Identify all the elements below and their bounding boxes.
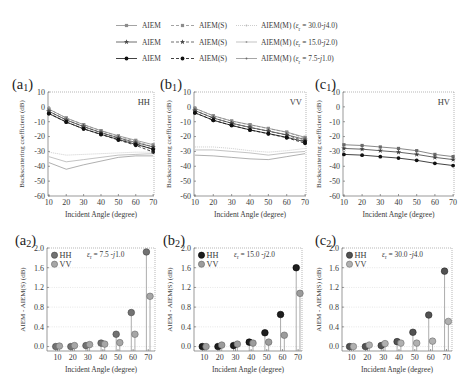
data-series xyxy=(195,147,305,152)
legend-entry: AIEM(M) (εr = 7.5-j1.0) xyxy=(236,54,334,64)
circle-marker-icon xyxy=(211,118,215,122)
legend-entry: AIEM(S) xyxy=(171,38,227,47)
legend-dot-icon xyxy=(198,261,204,267)
y-tick-label: -60 xyxy=(180,192,191,201)
x-tick-label: 70 xyxy=(442,353,450,362)
chart-panel: 100-10-20-30-40-50-6010203040506070Incid… xyxy=(12,76,157,219)
data-point xyxy=(132,331,139,338)
legend-entry: AIEM(M) (εr = 15.0-j2.0) xyxy=(236,38,338,48)
permittivity-annotation: εr = 30.0 -j4.0 xyxy=(382,250,423,260)
x-tick-label: 10 xyxy=(340,198,348,207)
legend-dot-icon xyxy=(346,261,352,267)
panel-label: (c1) xyxy=(315,76,336,93)
legend-label: HH xyxy=(207,251,219,260)
data-point xyxy=(113,331,120,338)
circle-marker-icon xyxy=(116,138,120,142)
chart-panel: 100-10-20-30-40-50-6010203040506070Incid… xyxy=(315,76,457,219)
star-marker-icon xyxy=(180,39,185,44)
circle-marker-icon xyxy=(99,133,103,137)
x-tick-label: 30 xyxy=(376,198,384,207)
x-tick-label: 10 xyxy=(45,198,53,207)
y-tick-label: 0 xyxy=(336,103,340,112)
data-point xyxy=(441,268,448,275)
x-tick-label: 60 xyxy=(283,198,291,207)
x-tick-label: 40 xyxy=(97,198,105,207)
series-line xyxy=(49,109,153,145)
polarization-label: HH xyxy=(138,97,150,107)
y-tick-label: 1.2 xyxy=(181,283,191,292)
y-tick-label: -20 xyxy=(329,132,340,141)
data-series xyxy=(49,152,153,155)
y-tick-label: 10 xyxy=(37,88,45,97)
y-tick-label: -10 xyxy=(34,118,45,127)
x-axis-title: Incident Angle (degree) xyxy=(212,365,285,374)
data-point xyxy=(281,332,288,339)
series-line xyxy=(195,154,305,160)
figure-panels: 100-10-20-30-40-50-6010203040506070Incid… xyxy=(12,76,457,374)
x-tick-label: 70 xyxy=(149,198,157,207)
data-point xyxy=(203,343,210,350)
x-tick-label: 30 xyxy=(228,198,236,207)
series-line xyxy=(195,150,305,155)
y-tick-label: -40 xyxy=(329,162,340,171)
y-tick-label: 10 xyxy=(183,88,191,97)
panel-label: (a2) xyxy=(15,232,36,249)
circle-marker-icon xyxy=(47,112,51,116)
data-series-vv xyxy=(203,290,304,351)
legend-label: AIEM(M) (εr = 30.0-j4.0) xyxy=(261,21,338,31)
x-tick-label: 40 xyxy=(246,198,254,207)
chart-panel: 0.00.40.81.21.62.010203040506070Incident… xyxy=(15,232,155,374)
x-tick-label: 60 xyxy=(129,353,137,362)
circle-marker-icon xyxy=(230,124,234,128)
data-point xyxy=(445,318,452,325)
x-tick-label: 70 xyxy=(449,198,457,207)
series-line xyxy=(195,147,305,152)
circle-marker-icon xyxy=(415,158,419,162)
series-line xyxy=(49,156,153,169)
x-tick-label: 60 xyxy=(278,353,286,362)
data-point xyxy=(86,341,93,348)
chart-panel: 100-10-20-30-40-50-6010203040506070Incid… xyxy=(160,76,309,219)
circle-marker-icon xyxy=(134,143,138,147)
x-tick-label: 50 xyxy=(264,198,272,207)
circle-marker-icon xyxy=(303,141,307,145)
data-point xyxy=(250,340,257,347)
data-point xyxy=(297,290,304,297)
data-series-vv xyxy=(56,293,153,351)
x-tick-label: 40 xyxy=(395,353,403,362)
y-tick-label: -30 xyxy=(34,147,45,156)
legend-dot-icon xyxy=(346,252,352,258)
data-point xyxy=(117,339,124,346)
x-tick-label: 10 xyxy=(200,353,208,362)
x-tick-label: 40 xyxy=(99,353,107,362)
y-tick-label: 1.2 xyxy=(329,283,339,292)
data-point xyxy=(56,343,63,350)
figure: AIEMAIEM(S)AIEM(M) (εr = 30.0-j4.0)AIEMA… xyxy=(0,0,470,391)
y-tick-label: -20 xyxy=(180,132,191,141)
y-tick-label: -60 xyxy=(34,192,45,201)
y-tick-label: 1.2 xyxy=(34,283,44,292)
legend-label: HH xyxy=(60,251,72,260)
circle-marker-icon xyxy=(82,127,86,131)
x-tick-label: 40 xyxy=(395,198,403,207)
x-tick-label: 10 xyxy=(347,353,355,362)
circle-marker-icon xyxy=(285,136,289,140)
x-tick-label: 50 xyxy=(114,353,122,362)
y-tick-label: 0.0 xyxy=(34,342,44,351)
legend-label: AIEM xyxy=(142,38,161,47)
legend-label: AIEM xyxy=(142,21,161,30)
legend-entry: AIEM xyxy=(116,21,161,30)
y-tick-label: 0 xyxy=(187,103,191,112)
x-tick-label: 60 xyxy=(431,198,439,207)
panel-label: (b1) xyxy=(160,76,182,93)
x-tick-label: 10 xyxy=(191,198,199,207)
y-tick-label: 0 xyxy=(41,103,45,112)
legend-label: AIEM(M) (εr = 15.0-j2.0) xyxy=(261,38,338,48)
legend-label: HH xyxy=(355,251,367,260)
legend-label: AIEM(M) (εr = 7.5-j1.0) xyxy=(261,54,334,64)
circle-marker-icon xyxy=(151,150,155,154)
data-point xyxy=(398,340,405,347)
y-axis-title: AIEM - AIEM(S) (dB) xyxy=(166,267,174,332)
x-tick-label: 30 xyxy=(231,353,239,362)
data-point xyxy=(382,340,389,347)
